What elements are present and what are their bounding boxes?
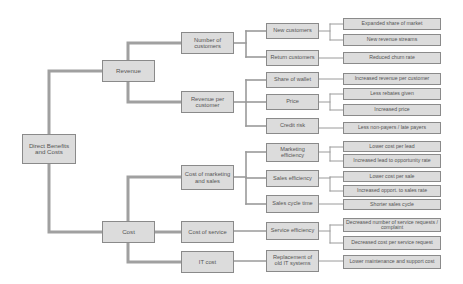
node-decreased-number-of-service-requests: Decreased number of service requests / c… — [343, 218, 441, 232]
node-shorter-sales-cycle: Shorter sales cycle — [343, 199, 441, 210]
tree-diagram: Direct Benefits and Costs Revenue Cost N… — [0, 0, 463, 284]
node-revenue: Revenue — [102, 60, 155, 82]
node-reduced-churn-rate: Reduced churn rate — [343, 52, 441, 64]
node-increased-opport-to-sales-rate: Increased opport. to sales rate — [343, 185, 441, 197]
node-replacement-of-old-it-systems: Replacement of old IT systems — [266, 250, 319, 272]
node-marketing-efficiency: Marketing efficiency — [266, 143, 319, 162]
node-increased-lead-to-opportunity-rate: Increased lead to opportunity rate — [343, 154, 441, 168]
node-expanded-share-of-market: Expanded share of market — [343, 18, 441, 30]
node-new-revenue-streams: New revenue streams — [343, 34, 441, 46]
node-return-customers: Return customers — [266, 50, 319, 66]
node-lower-cost-per-lead: Lower cost per lead — [343, 141, 441, 152]
node-cost-of-marketing-and-sales: Cost of marketing and sales — [181, 165, 234, 190]
node-sales-cycle-time: Sales cycle time — [266, 195, 319, 213]
node-service-efficiency: Service efficiency — [266, 222, 319, 240]
node-less-non-payers: Less non-payers / late payers — [343, 122, 441, 134]
node-price: Price — [266, 94, 319, 110]
node-increased-price: Increased price — [343, 104, 441, 116]
node-lower-cost-per-sale: Lower cost per sale — [343, 171, 441, 182]
node-sales-efficiency: Sales efficiency — [266, 170, 319, 187]
node-new-customers: New customers — [266, 23, 319, 39]
node-share-of-wallet: Share of wallet — [266, 72, 319, 88]
node-less-rebates-given: Less rebates given — [343, 88, 441, 100]
node-direct-benefits-and-costs: Direct Benefits and Costs — [22, 134, 76, 164]
node-it-cost: IT cost — [181, 251, 234, 273]
node-increased-revenue-per-customer: Increased revenue per customer — [343, 73, 441, 85]
node-number-of-customers: Number of customers — [181, 32, 234, 54]
node-decreased-cost-per-service-request: Decreased cost per service request — [343, 236, 441, 250]
node-credit-risk: Credit risk — [266, 118, 319, 134]
node-revenue-per-customer: Revenue per customer — [181, 91, 234, 113]
node-cost: Cost — [102, 221, 155, 243]
node-cost-of-service: Cost of service — [181, 221, 234, 243]
node-lower-maintenance-and-support-cost: Lower maintenance and support cost — [343, 255, 441, 269]
